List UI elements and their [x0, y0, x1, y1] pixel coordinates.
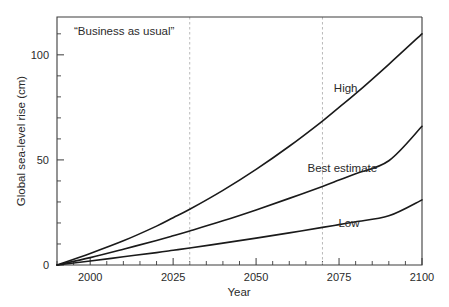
x-axis-title: Year — [227, 286, 250, 298]
x-tick-label: 2025 — [161, 271, 185, 283]
series-label-low: Low — [338, 217, 360, 229]
sea-level-rise-chart: 050100 20002025205020752100 HighBest est… — [0, 0, 449, 307]
x-tick-label: 2100 — [410, 271, 434, 283]
series-label-best-estimate: Best estimate — [308, 162, 378, 174]
series-label-high: High — [334, 82, 358, 94]
y-tick-label: 100 — [31, 49, 49, 61]
x-tick-label: 2000 — [78, 271, 102, 283]
y-tick-label: 0 — [43, 259, 49, 271]
x-tick-label: 2075 — [327, 271, 351, 283]
chart-svg: 050100 20002025205020752100 HighBest est… — [0, 0, 449, 307]
x-tick-label: 2050 — [244, 271, 268, 283]
business-as-usual-annotation: “Business as usual” — [74, 25, 175, 37]
y-tick-label: 50 — [37, 154, 49, 166]
y-axis-title: Global sea-level rise (cm) — [15, 76, 27, 207]
